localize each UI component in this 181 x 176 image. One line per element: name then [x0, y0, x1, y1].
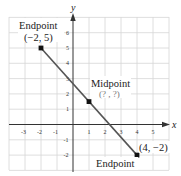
y-tick: -2	[64, 152, 69, 158]
endpoint-1-marker	[39, 46, 44, 51]
endpoint-1-coords: (−2, 5)	[24, 32, 53, 44]
y-tick: 4	[66, 60, 69, 66]
endpoint-2-coords: (4, −2)	[139, 142, 168, 154]
x-tick: 3	[120, 129, 123, 135]
midpoint-title: Midpoint	[91, 78, 130, 89]
y-tick: 2	[66, 91, 69, 97]
y-tick: 5	[66, 45, 69, 51]
x-tick-labels: -3 -2 -1 1 2 3 4 5	[21, 129, 155, 135]
y-tick: -1	[64, 137, 69, 143]
endpoint-1-title: Endpoint	[19, 20, 58, 31]
x-tick: -3	[21, 129, 26, 135]
x-tick: 4	[136, 129, 139, 135]
endpoint-2-title: Endpoint	[96, 158, 135, 169]
coordinate-plane: x y -3 -2 -1 1 2 3 4 5 6 5 4 3 2 1 -1 -2…	[0, 0, 181, 176]
x-tick: 5	[152, 129, 155, 135]
y-tick: 1	[66, 106, 69, 112]
x-tick: 1	[88, 129, 91, 135]
x-tick: -1	[53, 129, 58, 135]
x-tick: -2	[37, 129, 42, 135]
y-tick: 6	[66, 30, 69, 36]
x-axis-label: x	[171, 119, 177, 130]
midpoint-coords: (? , ?)	[99, 89, 120, 99]
y-axis-label: y	[70, 2, 76, 13]
endpoint-2-marker	[135, 153, 140, 158]
x-tick: 2	[104, 129, 107, 135]
midpoint-marker	[87, 99, 92, 104]
